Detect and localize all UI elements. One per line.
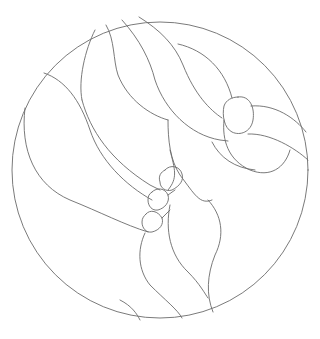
lower-lobe-right (208, 200, 221, 312)
outer-circle (12, 22, 308, 318)
upper-band-1b (82, 100, 160, 190)
heart-bottom (142, 211, 163, 232)
knot-inner-curve (212, 142, 255, 170)
lower-lobe-left-base (120, 300, 140, 320)
upper-band-3 (122, 20, 228, 141)
knot-oval (223, 97, 253, 134)
knot-lower-lobe (224, 120, 290, 173)
upper-band-5 (178, 44, 232, 98)
center-band (168, 120, 212, 201)
stained-glass-pattern (0, 0, 320, 339)
lower-lobe-middle (168, 205, 208, 298)
right-band-lower (248, 134, 308, 160)
center-band-2 (168, 150, 175, 190)
right-band-upper (251, 106, 306, 132)
lower-lobe-left (140, 233, 182, 318)
line-art-canvas: Line-art stained glass pattern inside a … (0, 0, 320, 339)
heart-top (159, 167, 182, 191)
